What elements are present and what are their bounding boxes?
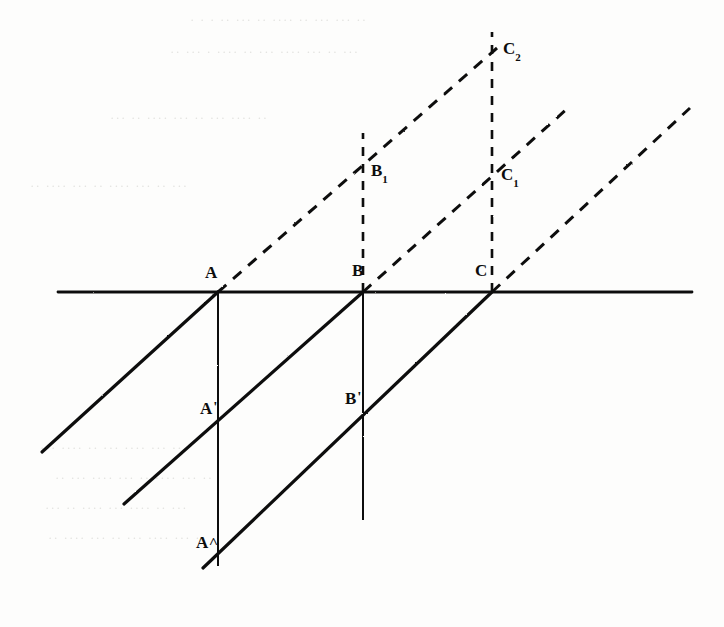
figure-canvas: · · · ·· ··· ·· ···· ·· ··· ··· ·· ·· ··… [0,0,724,627]
point-label-a: A [205,264,217,281]
point-label-b-one: B1 [371,162,388,182]
dashed-ray-from-b [363,108,568,292]
dashed-ray-from-c [492,108,690,292]
transversal-through-c [203,292,492,568]
point-label-c: C [475,262,487,279]
transversal-through-b [124,292,363,504]
point-label-c-one: C1 [501,166,519,186]
point-label-c-two: C2 [503,40,521,60]
transversal-through-a [42,292,218,452]
point-label-a-double-prime: A˄ [196,534,217,551]
point-label-b: B [352,262,363,279]
dashed-ray-from-a [218,48,497,292]
geometry-drawing [0,0,724,627]
point-label-a-prime: A' [200,400,216,417]
point-label-b-prime: B' [345,390,361,407]
